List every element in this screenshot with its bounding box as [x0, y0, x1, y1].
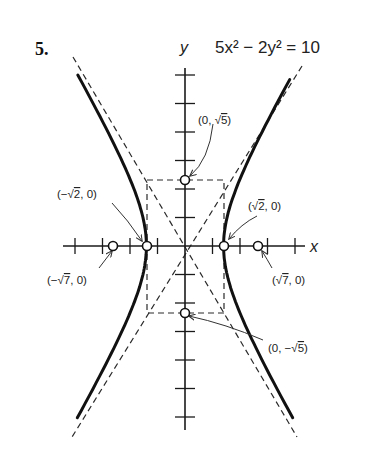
graph-svg: 5. y 5x² − 2y² = 10 x (0, √5) (−√2, 0)	[0, 0, 378, 463]
label-left-vertex: (−√2, 0)	[57, 188, 97, 200]
label-bottom-rect: (0, −√5)	[268, 342, 308, 354]
leader-arrow-left-focus	[99, 251, 112, 268]
leader-arrow-right-vertex	[229, 216, 257, 239]
problem-number: 5.	[35, 39, 49, 59]
point-bottom-rect	[181, 309, 190, 318]
leader-arrow-left-vertex	[112, 203, 142, 241]
point-right-vertex	[220, 242, 229, 251]
point-left-vertex	[143, 242, 152, 251]
label-right-focus: (√7, 0)	[272, 274, 305, 286]
label-left-focus: (−√7, 0)	[47, 274, 87, 286]
equation-title: 5x² − 2y² = 10	[215, 38, 320, 57]
x-axis-label: x	[309, 238, 319, 255]
hyperbola-figure: 5. y 5x² − 2y² = 10 x (0, √5) (−√2, 0)	[0, 0, 378, 463]
point-right-focus	[254, 242, 263, 251]
y-axis-label: y	[179, 39, 189, 56]
label-right-vertex: (√2, 0)	[248, 200, 281, 212]
point-top-rect	[181, 176, 190, 185]
label-top-rect: (0, √5)	[198, 114, 231, 126]
point-left-focus	[109, 242, 118, 251]
